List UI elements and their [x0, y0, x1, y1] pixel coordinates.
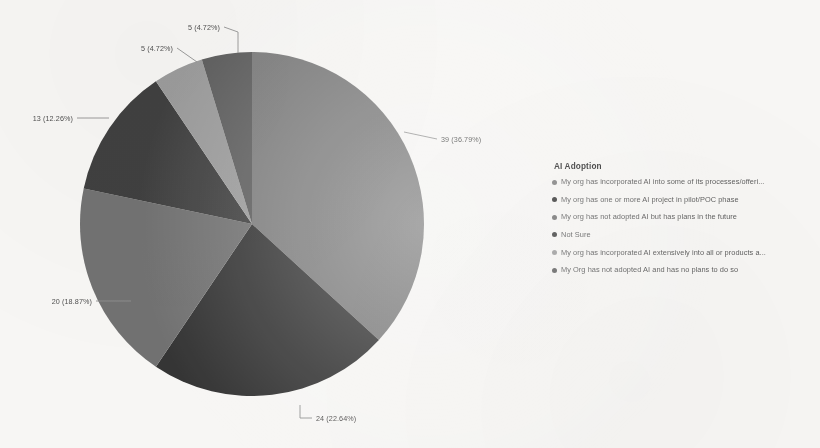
slice-label-24: 24 (22.64%): [316, 414, 356, 423]
leader-line-39: [404, 132, 437, 139]
legend-bullet-icon-5: [552, 268, 557, 273]
legend-item-1[interactable]: My org has one or more AI project in pil…: [552, 196, 820, 204]
leader-line-24: [300, 405, 312, 418]
legend-item-label-5: My Org has not adopted AI and has no pla…: [561, 266, 738, 274]
slice-label-13: 13 (12.26%): [33, 114, 73, 123]
legend-item-2[interactable]: My org has not adopted AI but has plans …: [552, 213, 820, 221]
leader-line-5b: [224, 27, 238, 53]
legend-item-3[interactable]: Not Sure: [552, 231, 820, 239]
legend-bullet-icon-0: [552, 180, 557, 185]
legend-item-0[interactable]: My org has incorporated AI into some of …: [552, 178, 820, 186]
pie-slice-group: [80, 52, 424, 396]
leader-line-5a: [177, 48, 197, 62]
legend-item-label-0: My org has incorporated AI into some of …: [561, 178, 764, 186]
legend: AI Adoption My org has incorporated AI i…: [552, 162, 820, 284]
slice-label-5-lower: 5 (4.72%): [141, 44, 173, 53]
pie-chart-area: 39 (36.79%) 24 (22.64%) 20 (18.87%) 13 (…: [0, 0, 545, 448]
slice-label-5-upper: 5 (4.72%): [188, 23, 220, 32]
slice-label-39: 39 (36.79%): [441, 135, 481, 144]
slice-label-20: 20 (18.87%): [52, 297, 92, 306]
legend-item-4[interactable]: My org has incorporated AI extensively i…: [552, 249, 820, 257]
legend-item-5[interactable]: My Org has not adopted AI and has no pla…: [552, 266, 820, 274]
legend-item-label-1: My org has one or more AI project in pil…: [561, 196, 739, 204]
legend-item-label-2: My org has not adopted AI but has plans …: [561, 213, 737, 221]
legend-item-label-4: My org has incorporated AI extensively i…: [561, 249, 766, 257]
legend-item-label-3: Not Sure: [561, 231, 591, 239]
pie-chart-svg: 39 (36.79%) 24 (22.64%) 20 (18.87%) 13 (…: [0, 0, 545, 448]
legend-bullet-icon-4: [552, 250, 557, 255]
legend-bullet-icon-1: [552, 197, 557, 202]
legend-item-list: My org has incorporated AI into some of …: [552, 178, 820, 274]
legend-title: AI Adoption: [554, 162, 820, 171]
legend-bullet-icon-2: [552, 215, 557, 220]
legend-bullet-icon-3: [552, 232, 557, 237]
